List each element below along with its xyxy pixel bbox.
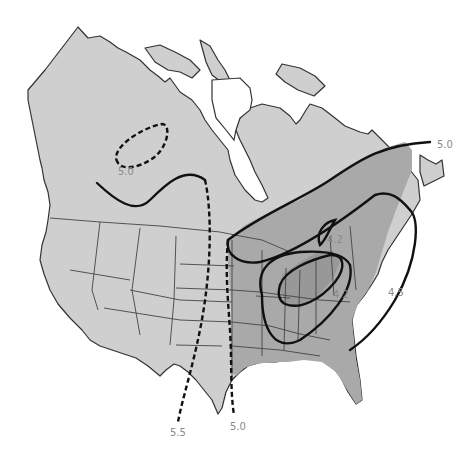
isoline-label: 4.2 [333,289,349,300]
isoline-label: 5.0 [230,421,246,432]
isoline-label: 5.0 [118,166,134,177]
isoline-label: 4.2 [327,234,343,245]
newfoundland [420,155,444,186]
isoline-label: 5.5 [170,427,186,438]
arctic-islands [200,40,230,84]
isoline-map: 5.0 5.0 4.2 4.2 4.5 5.5 5.0 [0,0,474,466]
baffin-island [276,64,325,96]
isoline-label: 5.0 [437,139,453,150]
isoline-label: 4.5 [388,287,404,298]
